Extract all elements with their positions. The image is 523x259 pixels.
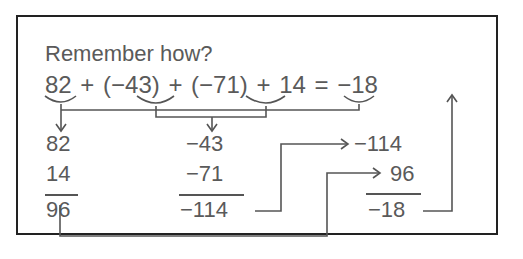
line-14-join (61, 104, 359, 110)
line-neg114-to-final (255, 144, 347, 211)
line-neg-join (156, 106, 266, 117)
brace-neg71 (246, 96, 285, 103)
line-neg18-up (423, 95, 452, 211)
brace-neg43 (137, 96, 174, 103)
brace-82 (45, 96, 76, 102)
brace-14 (344, 96, 374, 102)
connector-arrows (0, 0, 523, 259)
line-96-to-final (60, 173, 379, 236)
